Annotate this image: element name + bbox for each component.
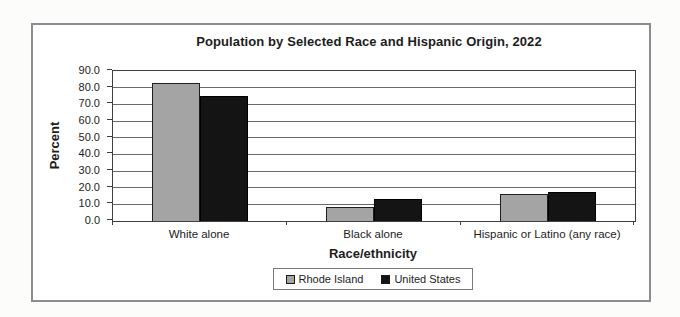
bar-united-states	[200, 96, 248, 221]
legend: Rhode IslandUnited States	[273, 268, 474, 290]
bar-united-states	[548, 192, 596, 221]
scanned-page: Population by Selected Race and Hispanic…	[0, 0, 680, 317]
x-category-labels: White aloneBlack aloneHispanic or Latino…	[112, 228, 634, 240]
bar-united-states	[374, 199, 422, 221]
y-tick-label: 40.0	[79, 147, 100, 159]
chart-frame: Population by Selected Race and Hispanic…	[31, 23, 651, 302]
y-tick-label: 0.0	[85, 214, 100, 226]
x-axis-ticks	[112, 221, 634, 226]
legend-swatch-icon	[286, 275, 295, 284]
x-axis-title: Race/ethnicity	[112, 246, 634, 261]
y-tick-label: 20.0	[79, 181, 100, 193]
plot-area	[112, 70, 636, 222]
legend-item: United States	[381, 273, 460, 285]
legend-swatch-icon	[381, 275, 390, 284]
legend-label: United States	[394, 273, 460, 285]
y-tick-label: 90.0	[79, 64, 100, 76]
bar-rhode-island	[152, 83, 200, 221]
x-tick-mark	[286, 221, 287, 225]
x-category-label: Black alone	[286, 228, 460, 240]
chart-title: Population by Selected Race and Hispanic…	[108, 34, 630, 49]
y-tick-label: 10.0	[79, 197, 100, 209]
y-tick-label: 50.0	[79, 131, 100, 143]
y-tick-label: 30.0	[79, 164, 100, 176]
x-category-label: White alone	[112, 228, 286, 240]
bar-rhode-island	[326, 207, 374, 221]
y-tick-label: 60.0	[79, 114, 100, 126]
bar-rhode-island	[500, 194, 548, 221]
y-tick-label: 70.0	[79, 97, 100, 109]
legend-item: Rhode Island	[286, 273, 364, 285]
legend-label: Rhode Island	[299, 273, 364, 285]
x-tick-mark	[112, 221, 113, 225]
x-tick-mark	[460, 221, 461, 225]
x-category-label: Hispanic or Latino (any race)	[460, 228, 634, 240]
legend-row: Rhode IslandUnited States	[112, 268, 634, 290]
y-axis: 0.010.020.030.040.050.060.070.080.090.0	[33, 70, 112, 220]
y-tick-label: 80.0	[79, 81, 100, 93]
x-tick-mark	[633, 221, 634, 225]
